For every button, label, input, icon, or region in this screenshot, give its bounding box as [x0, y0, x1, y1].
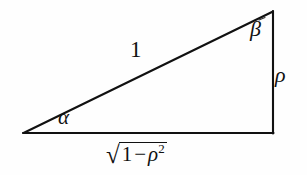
- radical-expression: √1−ρ2: [106, 142, 167, 167]
- radicand: 1−ρ2: [119, 142, 167, 165]
- base-length-label: √1−ρ2: [106, 142, 167, 167]
- vertical-leg-length-label: ρ: [275, 64, 286, 86]
- radical-sign-icon: √: [106, 142, 120, 167]
- radicand-exponent: 2: [158, 141, 165, 156]
- radicand-operator: −: [132, 142, 148, 166]
- angle-alpha-label: α: [58, 107, 69, 128]
- triangle-figure: 1 α β ρ √1−ρ2: [0, 0, 307, 175]
- hypotenuse-length-label: 1: [130, 38, 142, 61]
- radicand-rho-symbol: ρ: [148, 142, 158, 166]
- angle-beta-label: β: [250, 18, 261, 40]
- radicand-first-term: 1: [122, 142, 133, 166]
